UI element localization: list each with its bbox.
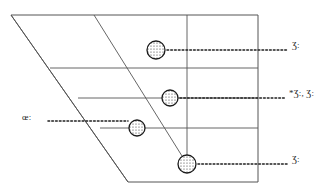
marker-2 bbox=[162, 90, 178, 106]
slant-line-left bbox=[11, 15, 128, 182]
annotation-label-right-2: *Ʒ:, Ʒ: bbox=[289, 89, 314, 98]
marker-3 bbox=[129, 120, 145, 136]
marker-1 bbox=[147, 41, 165, 59]
annotation-label-left-1: œ: bbox=[22, 113, 31, 122]
annotation-label-right-1: Ʒ: bbox=[292, 41, 300, 50]
marker-4 bbox=[178, 155, 196, 173]
diagram-canvas: Ʒ: *Ʒ:, Ʒ: Ʒ: œ: bbox=[0, 0, 336, 192]
slant-line-right bbox=[94, 15, 187, 164]
parallelogram-outline bbox=[11, 15, 258, 182]
annotation-label-right-3: Ʒ: bbox=[292, 155, 300, 164]
diagram-vector-layer bbox=[0, 0, 336, 192]
